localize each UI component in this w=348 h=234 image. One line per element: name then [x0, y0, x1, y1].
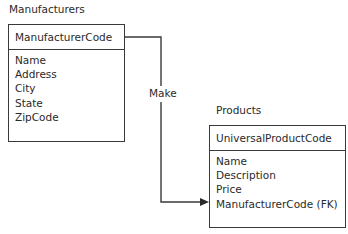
relationship-connector	[0, 0, 348, 234]
relationship-label: Make	[148, 87, 178, 99]
arrowhead-icon	[200, 198, 209, 206]
